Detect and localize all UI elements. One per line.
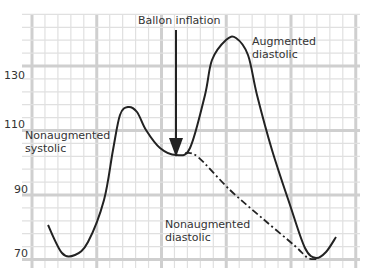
nonaugmented-systolic-label-2: systolic (25, 142, 66, 155)
nonaugmented-systolic-label-1: Nonaugmented (25, 129, 110, 142)
y-tick-110: 110 (4, 118, 25, 131)
nonaugmented-diastolic-label-2: diastolic (165, 231, 211, 244)
augmented-diastolic-label-1: Augmented (252, 35, 316, 48)
y-tick-130: 130 (4, 69, 25, 82)
y-tick-70: 70 (14, 247, 28, 260)
balloon-inflation-label: Ballon inflation (138, 14, 220, 27)
nonaugmented-diastolic-label-1: Nonaugmented (165, 218, 250, 231)
balloon-inflation-arrow (169, 30, 183, 157)
augmented-diastolic-label-2: diastolic (252, 48, 298, 61)
y-tick-90: 90 (14, 183, 28, 196)
